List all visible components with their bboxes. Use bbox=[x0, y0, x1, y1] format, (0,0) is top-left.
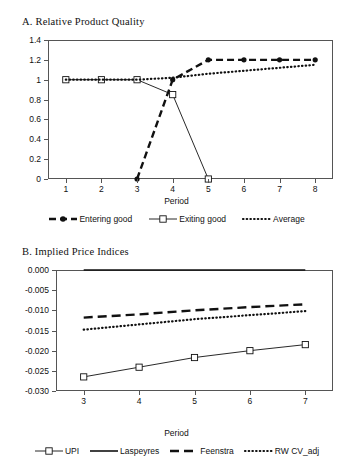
chart-b-y-tick-mark bbox=[52, 290, 56, 291]
legend-swatch-solid-thin bbox=[34, 446, 64, 456]
chart-b-y-tick-label: -0.010 bbox=[0, 305, 49, 315]
chart-a-data-point bbox=[313, 57, 318, 62]
chart-a-x-tick-label: 5 bbox=[206, 184, 211, 194]
chart-b-y-tick-mark bbox=[52, 391, 56, 392]
chart-b-y-tick-mark bbox=[52, 270, 56, 271]
chart-a-y-tick-mark bbox=[44, 40, 48, 41]
chart-b-implied-price-indices: -0.030-0.025-0.020-0.015-0.010-0.0050.00… bbox=[0, 264, 353, 412]
chart-b-x-tick-mark bbox=[195, 391, 196, 395]
panel-b-title: B. Implied Price Indices bbox=[22, 246, 129, 257]
legend-swatch-dashed-thick bbox=[48, 214, 78, 224]
chart-b-legend: UPILaspeyresFeenstraRW CV_adj bbox=[0, 444, 353, 458]
chart-a-x-tick-label: 8 bbox=[313, 184, 318, 194]
legend-swatch-dotted bbox=[244, 446, 274, 456]
chart-b-y-tick-mark bbox=[52, 351, 56, 352]
chart-a-x-tick-label: 3 bbox=[135, 184, 140, 194]
chart-b-x-tick-mark bbox=[139, 391, 140, 395]
chart-b-x-tick-label: 4 bbox=[137, 396, 142, 406]
chart-a-x-tick-label: 1 bbox=[63, 184, 68, 194]
chart-a-y-tick-label: 0 bbox=[0, 174, 41, 184]
chart-b-y-tick-label: -0.005 bbox=[0, 285, 49, 295]
chart-a-y-tick-mark bbox=[44, 179, 48, 180]
chart-b-x-tick-mark bbox=[84, 391, 85, 395]
chart-b-y-tick-mark bbox=[52, 331, 56, 332]
legend-item-entering-good[interactable]: Entering good bbox=[48, 214, 132, 224]
chart-a-x-tick-label: 4 bbox=[170, 184, 175, 194]
chart-a-y-tick-mark bbox=[44, 159, 48, 160]
chart-a-x-tick-label: 6 bbox=[242, 184, 247, 194]
chart-b-y-tick-label: 0.000 bbox=[0, 265, 49, 275]
chart-a-x-axis-title: Period bbox=[0, 196, 353, 206]
chart-b-data-point bbox=[247, 348, 253, 354]
chart-b-y-tick-label: -0.015 bbox=[0, 326, 49, 336]
chart-b-data-point bbox=[81, 374, 87, 380]
chart-a-x-tick-label: 2 bbox=[99, 184, 104, 194]
chart-b-y-tick-mark bbox=[52, 371, 56, 372]
legend-item-average[interactable]: Average bbox=[242, 214, 305, 224]
legend-label: Exiting good bbox=[178, 214, 226, 224]
chart-a-y-tick-label: 0.6 bbox=[0, 114, 41, 124]
chart-b-series-line bbox=[84, 311, 306, 330]
chart-a-y-tick-mark bbox=[44, 80, 48, 81]
chart-a-y-tick-label: 0.2 bbox=[0, 154, 41, 164]
legend-swatch-solid-thin bbox=[148, 214, 178, 224]
chart-a-data-point bbox=[170, 92, 176, 98]
legend-label: Entering good bbox=[78, 214, 132, 224]
legend-item-exiting-good[interactable]: Exiting good bbox=[148, 214, 226, 224]
chart-b-x-tick-mark bbox=[250, 391, 251, 395]
chart-a-x-tick-mark bbox=[208, 179, 209, 183]
legend-item-laspeyres[interactable]: Laspeyres bbox=[89, 446, 159, 456]
chart-a-data-point bbox=[241, 57, 246, 62]
chart-b-data-point bbox=[136, 364, 142, 370]
legend-item-rw-cv-adj[interactable]: RW CV_adj bbox=[244, 446, 319, 456]
chart-a-y-tick-label: 0.4 bbox=[0, 134, 41, 144]
chart-a-y-tick-label: 1.4 bbox=[0, 35, 41, 45]
chart-a-y-tick-label: 1.2 bbox=[0, 55, 41, 65]
chart-a-data-point bbox=[277, 57, 282, 62]
legend-swatch-dotted bbox=[242, 214, 272, 224]
chart-b-data-point bbox=[191, 354, 197, 360]
chart-a-data-point bbox=[206, 57, 211, 62]
legend-label: Average bbox=[272, 214, 305, 224]
chart-b-x-tick-mark bbox=[305, 391, 306, 395]
legend-item-upi[interactable]: UPI bbox=[34, 446, 79, 456]
panel-a-title: A. Relative Product Quality bbox=[22, 16, 145, 27]
legend-swatch-solid-thick bbox=[89, 446, 119, 456]
chart-a-x-tick-mark bbox=[315, 179, 316, 183]
chart-a-series-line bbox=[66, 80, 209, 179]
figure-page: A. Relative Product Quality 00.20.40.60.… bbox=[0, 0, 353, 466]
legend-label: UPI bbox=[64, 446, 79, 456]
chart-b-series-line bbox=[84, 304, 306, 317]
chart-a-x-tick-mark bbox=[244, 179, 245, 183]
chart-a-x-tick-mark bbox=[137, 179, 138, 183]
chart-a-relative-product-quality: 00.20.40.60.811.21.4 12345678 bbox=[0, 34, 353, 194]
chart-a-y-tick-mark bbox=[44, 100, 48, 101]
chart-a-x-tick-label: 7 bbox=[277, 184, 282, 194]
chart-b-y-tick-label: -0.020 bbox=[0, 346, 49, 356]
chart-b-x-tick-label: 7 bbox=[303, 396, 308, 406]
chart-b-x-tick-label: 6 bbox=[248, 396, 253, 406]
chart-a-series-line bbox=[137, 60, 315, 179]
chart-a-series-layer bbox=[0, 34, 353, 194]
chart-a-y-tick-mark bbox=[44, 119, 48, 120]
chart-a-y-tick-label: 1 bbox=[0, 75, 41, 85]
chart-b-x-tick-label: 3 bbox=[81, 396, 86, 406]
chart-b-data-point bbox=[302, 342, 308, 348]
chart-b-y-tick-mark bbox=[52, 310, 56, 311]
chart-a-x-tick-mark bbox=[280, 179, 281, 183]
chart-b-series-layer bbox=[0, 264, 353, 412]
legend-label: RW CV_adj bbox=[274, 446, 319, 456]
chart-a-x-tick-mark bbox=[66, 179, 67, 183]
legend-label: Feenstra bbox=[199, 446, 234, 456]
legend-label: Laspeyres bbox=[119, 446, 159, 456]
chart-a-y-tick-mark bbox=[44, 139, 48, 140]
legend-item-feenstra[interactable]: Feenstra bbox=[169, 446, 234, 456]
chart-a-x-tick-mark bbox=[173, 179, 174, 183]
chart-b-x-tick-label: 5 bbox=[192, 396, 197, 406]
chart-a-legend: Entering goodExiting goodAverage bbox=[0, 212, 353, 226]
chart-a-x-tick-mark bbox=[101, 179, 102, 183]
chart-b-x-axis-title: Period bbox=[0, 428, 353, 438]
chart-b-y-tick-label: -0.025 bbox=[0, 366, 49, 376]
chart-b-y-tick-label: -0.030 bbox=[0, 386, 49, 396]
chart-a-y-tick-mark bbox=[44, 60, 48, 61]
